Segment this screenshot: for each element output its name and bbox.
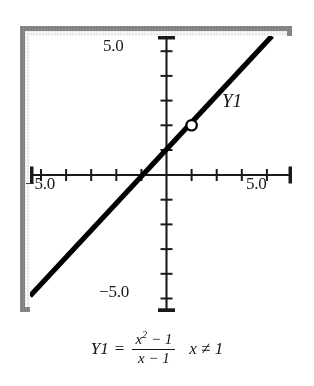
figure-caption: Y1 = x2 − 1 x − 1 x ≠ 1 — [0, 330, 314, 367]
equation-equals-sign: = — [114, 339, 126, 359]
x-axis-label-max: 5.0 — [246, 174, 267, 194]
numerator-exponent: 2 — [142, 329, 147, 340]
equation-condition: x ≠ 1 — [189, 339, 223, 359]
graph-figure: Y1 5.0 −5.0 −5.0 5.0 Y1 = x2 − 1 x − 1 x… — [0, 0, 314, 386]
plot-frame: Y1 — [20, 26, 292, 312]
hole-open-circle — [186, 120, 196, 130]
numerator-rest: − 1 — [151, 331, 172, 347]
equation: Y1 = x2 − 1 x − 1 x ≠ 1 — [91, 330, 223, 367]
curve-y1 — [30, 36, 272, 296]
equation-fraction: x2 − 1 x − 1 — [132, 330, 175, 367]
fraction-numerator: x2 − 1 — [132, 330, 175, 349]
curve-line — [30, 36, 272, 296]
y-axis-label-min: −5.0 — [99, 282, 129, 302]
x-axis-label-min: −5.0 — [25, 174, 55, 194]
curve-label: Y1 — [222, 90, 242, 112]
equation-lhs: Y1 — [91, 339, 109, 359]
fraction-denominator: x − 1 — [135, 350, 173, 367]
y-axis-label-max: 5.0 — [103, 36, 124, 56]
